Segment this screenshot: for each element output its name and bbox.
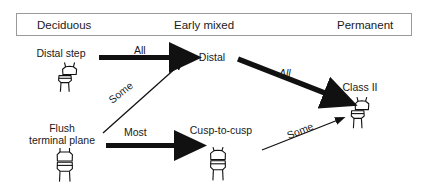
molar-class-ii-icon (345, 96, 377, 130)
molar-flush-terminal-plane-icon (50, 147, 80, 183)
edge-label-all-distal-classii: All (279, 67, 291, 79)
molar-cusp-to-cusp-icon (203, 146, 233, 182)
molar-distal-step-icon (52, 61, 86, 94)
edge-label-some-flush-distal: Some (106, 79, 135, 105)
edge-label-some-cusp-classii: Some (285, 120, 315, 141)
stage-label-permanent: Permanent (337, 17, 393, 33)
stage-label-deciduous: Deciduous (37, 17, 91, 33)
stage-header-bar: Deciduous Early mixed Permanent (16, 13, 412, 36)
node-label-cusp-to-cusp: Cusp-to-cusp (186, 125, 256, 137)
node-label-distal-step: Distal step (25, 48, 97, 60)
diagram-canvas: Deciduous Early mixed Permanent (0, 0, 425, 189)
edge-label-all-distal-step: All (134, 44, 146, 56)
node-label-flush-terminal-plane: Flush terminal plane (22, 123, 102, 146)
stage-label-early-mixed: Early mixed (174, 17, 234, 33)
node-label-class-ii: Class II (336, 82, 384, 94)
edge-label-most: Most (124, 126, 147, 138)
node-label-distal: Distal (190, 52, 234, 64)
